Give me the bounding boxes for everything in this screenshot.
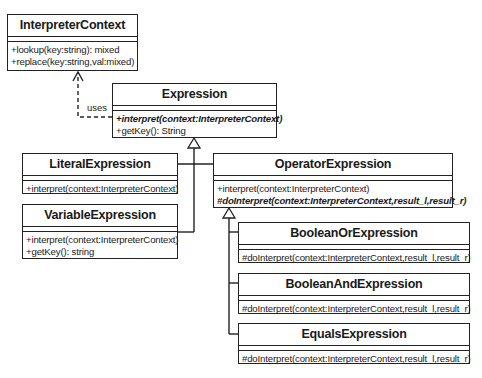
method-interpret: +interpret(context:InterpreterContext) [26,234,174,246]
class-operator-expression[interactable]: OperatorExpression +interpret(context:In… [213,153,453,208]
method-dointerpret: #doInterpret(context:InterpreterContext,… [242,353,466,365]
generalization-to-expression [177,138,213,232]
class-name: InterpreterContext [8,15,137,37]
method-lookup: +lookup(key:string): mixed [11,44,134,56]
methods-compartment: +interpret(context:InterpreterContext) +… [23,232,177,260]
class-name: OperatorExpression [214,154,452,176]
class-name: BooleanOrExpression [239,223,469,245]
class-name: VariableExpression [23,205,177,227]
methods-compartment: +interpret(context:InterpreterContext) #… [214,181,452,209]
class-name: Expression [113,84,276,106]
method-getkey: +getKey(): String [116,125,273,137]
class-variable-expression[interactable]: VariableExpression +interpret(context:In… [22,204,178,259]
class-equals-expression[interactable]: EqualsExpression #doInterpret(context:In… [238,323,470,364]
method-dointerpret: #doInterpret(context:InterpreterContext,… [242,252,466,264]
methods-compartment: #doInterpret(context:InterpreterContext,… [239,301,469,317]
methods-compartment: +interpret(context:InterpreterContext) [23,181,177,197]
class-literal-expression[interactable]: LiteralExpression +interpret(context:Int… [22,153,178,194]
class-name: LiteralExpression [23,154,177,176]
method-dointerpret-abstract: #doInterpret(context:InterpreterContext,… [217,195,449,207]
method-interpret: +interpret(context:InterpreterContext) [26,183,174,195]
class-interpreter-context[interactable]: InterpreterContext +lookup(key:string): … [7,14,138,71]
methods-compartment: #doInterpret(context:InterpreterContext,… [239,351,469,367]
uses-label: uses [87,102,107,113]
class-name: BooleanAndExpression [239,274,469,296]
methods-compartment: #doInterpret(context:InterpreterContext,… [239,250,469,266]
class-boolean-and-expression[interactable]: BooleanAndExpression #doInterpret(contex… [238,273,470,314]
methods-compartment: +lookup(key:string): mixed +replace(key:… [8,42,137,70]
class-name: EqualsExpression [239,324,469,346]
method-dointerpret: #doInterpret(context:InterpreterContext,… [242,303,466,315]
method-interpret: +interpret(context:InterpreterContext) [217,183,449,195]
method-getkey: +getKey(): string [26,246,174,258]
class-boolean-or-expression[interactable]: BooleanOrExpression #doInterpret(context… [238,222,470,263]
generalization-to-operator-expression [223,208,238,334]
class-expression[interactable]: Expression +interpret(context:Interprete… [112,83,277,138]
method-replace: +replace(key:string,val:mixed) [11,56,134,68]
methods-compartment: +interpret(context:InterpreterContext) +… [113,111,276,139]
method-interpret-abstract: +interpret(context:InterpreterContext) [116,113,273,125]
